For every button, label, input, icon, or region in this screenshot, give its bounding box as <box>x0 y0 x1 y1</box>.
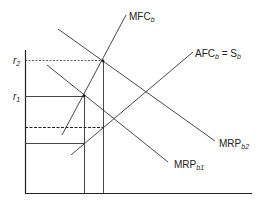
mfc-label: MFCb <box>129 11 155 23</box>
r1-label: r1 <box>13 91 20 103</box>
r2-label: r2 <box>13 55 20 67</box>
afc-supply-curve <box>71 52 193 155</box>
equilibrium-point-2 <box>102 60 105 63</box>
mrp-b1-label: MRPb1 <box>174 159 204 171</box>
mrp-b2-label: MRPb2 <box>219 138 249 150</box>
equilibrium-point-1 <box>83 95 86 98</box>
afc-supply-label: AFCb = Sb <box>195 48 241 60</box>
mrp-b2-curve <box>58 29 215 141</box>
mrp-b1-curve <box>47 65 168 162</box>
factor-market-diagram: r2 r1 MFCb AFCb = Sb MRPb2 MRPb1 <box>0 0 263 204</box>
